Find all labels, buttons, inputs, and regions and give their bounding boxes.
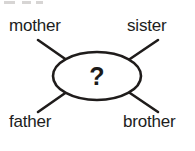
node-label-mother: mother: [9, 17, 61, 34]
center-question-mark: ?: [89, 62, 104, 90]
diagram-canvas: ? mother sister father brother: [0, 0, 195, 151]
node-label-father: father: [9, 113, 51, 130]
node-label-sister: sister: [127, 17, 166, 34]
node-label-brother: brother: [123, 113, 175, 130]
